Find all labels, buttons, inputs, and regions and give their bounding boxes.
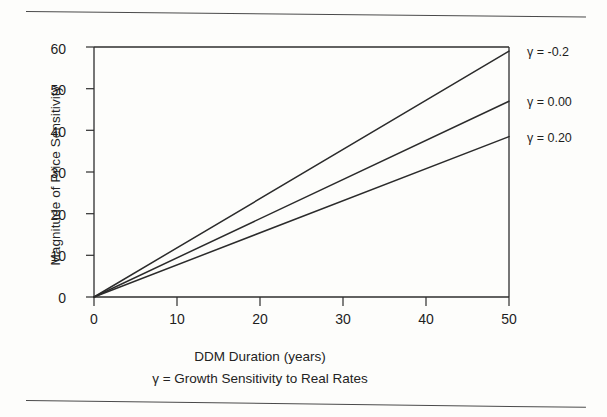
series-label-gamma-0-00: γ = 0.00 bbox=[527, 95, 572, 109]
y-axis-ticks bbox=[86, 47, 94, 297]
data-line-gamma-0-00 bbox=[94, 101, 509, 297]
series-label-gamma-neg-0-2: γ = -0.2 bbox=[527, 45, 569, 59]
x-axis-ticks bbox=[94, 297, 509, 306]
data-series-group bbox=[94, 51, 509, 297]
figure-subtitle: γ = Growth Sensitivity to Real Rates bbox=[0, 371, 520, 386]
data-line-gamma-0-20 bbox=[94, 137, 509, 297]
x-axis-title: DDM Duration (years) bbox=[0, 349, 520, 364]
chart-figure: Magnitude of Price Sensitivity 60 50 40 … bbox=[0, 0, 607, 417]
series-label-gamma-0-20: γ = 0.20 bbox=[527, 131, 572, 145]
data-line-gamma-neg-0-2 bbox=[94, 51, 509, 297]
